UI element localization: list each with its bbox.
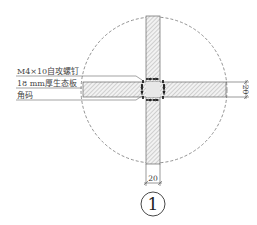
label-screw: M4×10自攻螺钉	[17, 66, 79, 76]
dimension-right-value: 20	[241, 85, 250, 95]
detail-drawing: M4×10自攻螺钉 18 mm厚生态板 角码 20 20 1	[0, 0, 257, 225]
dimension-bottom-value: 20	[148, 174, 158, 183]
joint-block	[146, 82, 160, 97]
detail-marker-number: 1	[148, 194, 159, 214]
label-board: 18 mm厚生态板	[17, 78, 77, 88]
label-bracket: 角码	[17, 90, 33, 100]
